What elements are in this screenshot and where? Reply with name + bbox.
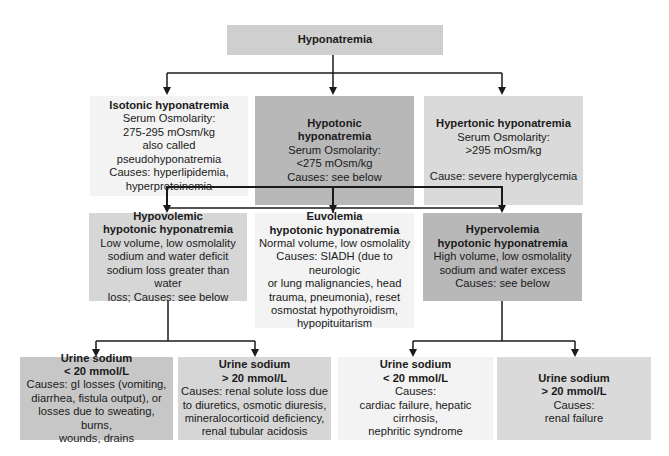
node-line: trauma, pneumonia), reset <box>269 291 400 304</box>
node-line: sodium and water excess <box>439 264 565 277</box>
node-euvolemia: Euvolemia hypotonic hyponatremia Normal … <box>255 213 414 328</box>
node-title: < 20 mmol/L <box>64 365 129 378</box>
node-line: hypopituitarism <box>297 317 372 330</box>
node-line: High volume, low osmolality <box>433 250 571 263</box>
node-line: Causes: SIADH (due to neurologic <box>258 250 411 277</box>
node-hypovolemic-urine-high: Urine sodium > 20 mmol/L Causes: renal s… <box>178 357 331 440</box>
node-title: hypotonic hyponatremia <box>103 223 233 236</box>
node-line: Causes: renal solute loss due <box>181 385 328 398</box>
node-hypovolemic: Hypovolemic hypotonic hyponatremia Low v… <box>89 213 247 301</box>
node-title: Urine sodium <box>61 352 132 365</box>
node-title: > 20 mmol/L <box>542 385 607 398</box>
node-title: Hypovolemic <box>133 210 203 223</box>
node-title: hypotonic hyponatremia <box>270 224 400 237</box>
node-hypervolemic-urine-low: Urine sodium < 20 mmol/L Causes: cardiac… <box>338 357 493 440</box>
node-line: sodium and water deficit <box>108 250 229 263</box>
node-line: Low volume, low osmolality <box>100 237 236 250</box>
node-line: to diuretics, osmotic diuresis, <box>183 399 327 412</box>
node-title: Euvolemia <box>307 210 363 223</box>
node-line: nephritic syndrome <box>368 425 463 438</box>
node-line: osmostat hypothyroidism, <box>271 304 398 317</box>
node-hypervolemia: Hypervolemia hypotonic hyponatremia High… <box>423 213 582 301</box>
node-line: Causes: see below <box>455 277 550 290</box>
node-hypovolemic-urine-low: Urine sodium < 20 mmol/L Causes: gI loss… <box>20 357 173 440</box>
node-title: Urine sodium <box>380 358 451 371</box>
node-line: Causes: gI losses (vomiting, <box>27 378 167 391</box>
node-line: mineralocorticoid deficiency, <box>185 412 325 425</box>
node-line: Causes: <box>395 385 436 398</box>
node-title: > 20 mmol/L <box>222 372 287 385</box>
node-line: cardiac failure, hepatic cirrhosis, <box>341 399 490 426</box>
node-title: Urine sodium <box>538 372 609 385</box>
node-title: < 20 mmol/L <box>383 372 448 385</box>
node-line: losses due to sweating, burns, <box>23 405 170 432</box>
node-line: wounds, drains <box>59 432 134 445</box>
node-title: hypotonic hyponatremia <box>438 237 568 250</box>
node-line: renal failure <box>545 412 603 425</box>
node-line: Causes: <box>553 399 594 412</box>
node-line: loss; Causes: see below <box>108 291 229 304</box>
node-line: Normal volume, low osmolality <box>259 237 410 250</box>
node-line: diarrhea, fistula output), or <box>31 392 162 405</box>
node-line: renal tubular acidosis <box>202 425 308 438</box>
node-line: or lung malignancies, head <box>268 277 402 290</box>
node-title: Urine sodium <box>219 358 290 371</box>
node-hypervolemic-urine-high: Urine sodium > 20 mmol/L Causes: renal f… <box>497 357 651 440</box>
node-title: Hypervolemia <box>466 223 539 236</box>
node-line: sodium loss greater than water <box>92 264 244 291</box>
